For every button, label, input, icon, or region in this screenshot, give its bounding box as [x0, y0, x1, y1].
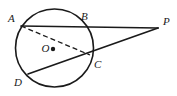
geometry-figure: A B C D O P: [0, 0, 177, 96]
dashed-chord-ac: [21, 26, 90, 55]
secant-line-abp: [21, 26, 158, 28]
geometry-canvas: [0, 0, 177, 96]
vertex-label-b: B: [81, 11, 88, 22]
vertex-label-p: P: [163, 16, 170, 27]
vertex-label-d: D: [14, 77, 22, 88]
vertex-label-o: O: [42, 43, 50, 54]
center-point-dot: [51, 47, 55, 51]
vertex-label-c: C: [94, 59, 101, 70]
vertex-label-a: A: [8, 13, 15, 24]
